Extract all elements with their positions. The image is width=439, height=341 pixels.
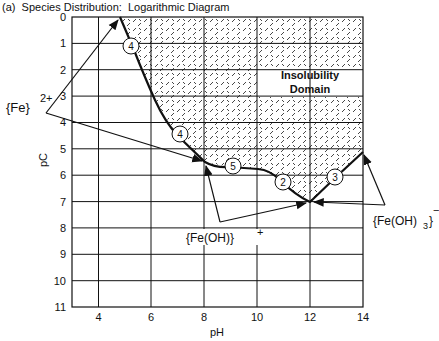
svg-text:6: 6 bbox=[148, 311, 154, 323]
svg-text:7: 7 bbox=[60, 196, 66, 208]
svg-text:4: 4 bbox=[128, 41, 134, 52]
svg-text:6: 6 bbox=[60, 169, 66, 181]
svg-text:+: + bbox=[257, 226, 263, 238]
svg-text:14: 14 bbox=[357, 311, 369, 323]
svg-text:0: 0 bbox=[60, 11, 66, 23]
svg-text:{Fe}: {Fe} bbox=[6, 100, 31, 115]
svg-text:3: 3 bbox=[60, 90, 66, 102]
region-label-line2: Domain bbox=[290, 83, 331, 95]
segment-label-4: 2 bbox=[275, 174, 291, 190]
svg-text:−: − bbox=[433, 204, 439, 216]
svg-text:1: 1 bbox=[60, 37, 66, 49]
svg-text:11: 11 bbox=[55, 301, 66, 313]
svg-text:2+: 2+ bbox=[40, 92, 53, 104]
x-axis-ticks: 4 6 8 10 12 14 bbox=[95, 311, 369, 323]
y-axis-label: pC bbox=[37, 153, 49, 167]
segment-label-5: 3 bbox=[327, 169, 343, 185]
feoh3-label: {Fe(OH) 3 } − bbox=[373, 204, 439, 231]
segment-label-2: 4 bbox=[172, 126, 188, 142]
svg-text:2: 2 bbox=[60, 64, 66, 76]
svg-text:4: 4 bbox=[95, 311, 101, 323]
segment-label-3: 5 bbox=[225, 158, 241, 174]
region-label-line1: Insolubility bbox=[281, 69, 340, 81]
y-axis-ticks: 0 1 2 3 4 5 6 7 8 9 10 11 bbox=[54, 11, 66, 313]
svg-text:9: 9 bbox=[60, 248, 66, 260]
svg-text:3: 3 bbox=[332, 172, 338, 183]
svg-text:12: 12 bbox=[304, 311, 316, 323]
feoh-label: {Fe(OH)} + bbox=[182, 226, 268, 245]
svg-text:2: 2 bbox=[280, 177, 286, 188]
svg-text:10: 10 bbox=[54, 275, 66, 287]
svg-text:{Fe(OH)}: {Fe(OH)} bbox=[186, 231, 234, 245]
svg-text:10: 10 bbox=[251, 311, 263, 323]
svg-text:5: 5 bbox=[60, 143, 66, 155]
svg-text:5: 5 bbox=[230, 161, 236, 172]
segment-label-1: 4 bbox=[123, 38, 139, 54]
svg-text:8: 8 bbox=[201, 311, 207, 323]
svg-text:3: 3 bbox=[423, 221, 428, 231]
svg-text:8: 8 bbox=[60, 222, 66, 234]
fe2-label: {Fe} 2+ bbox=[6, 92, 53, 115]
svg-text:{Fe(OH): {Fe(OH) bbox=[373, 214, 417, 228]
x-axis-label: pH bbox=[210, 326, 224, 338]
svg-text:4: 4 bbox=[177, 129, 183, 140]
insolubility-region bbox=[120, 17, 363, 202]
log-diagram: Insolubility Domain 4 4 5 2 3 {Fe} 2+ bbox=[0, 0, 439, 341]
svg-text:}: } bbox=[429, 214, 433, 228]
svg-text:4: 4 bbox=[60, 116, 66, 128]
